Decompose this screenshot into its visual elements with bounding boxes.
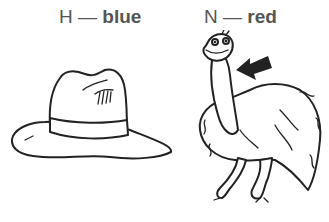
- emu-dash: —: [223, 6, 242, 27]
- emu-letter: N: [204, 6, 218, 27]
- hat-label: H — blue: [59, 6, 141, 28]
- arrow-pointer: [236, 56, 272, 80]
- emu-label: N — red: [204, 6, 277, 28]
- hat-icon: [5, 60, 175, 160]
- hat-letter: H: [59, 6, 73, 27]
- hat-dash: —: [78, 6, 97, 27]
- hat-color-word: blue: [102, 6, 141, 27]
- emu-icon: [180, 30, 329, 205]
- emu-color-word: red: [247, 6, 277, 27]
